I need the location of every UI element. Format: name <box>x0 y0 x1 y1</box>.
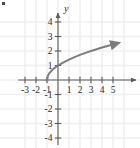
y-axis-tick-label: 4 <box>48 17 53 27</box>
y-axis-name-label: y <box>63 3 69 14</box>
y-axis-tick-label: -1 <box>45 90 53 100</box>
coordinate-plane: -3-2-112345-4-3-2-11234 y <box>0 0 140 148</box>
x-axis-tick-label: 4 <box>100 85 105 95</box>
x-axis-tick-label: 5 <box>111 85 116 95</box>
x-axis-tick-label: 2 <box>78 85 83 95</box>
y-axis-tick-label: -3 <box>45 119 53 129</box>
y-axis-tick-label: -4 <box>45 133 53 143</box>
grid-lines <box>0 0 140 148</box>
function-curve <box>45 43 118 82</box>
x-axis-tick-label: 1 <box>67 85 72 95</box>
y-axis-tick-label: 3 <box>48 32 53 42</box>
axis-name-labels: y <box>63 3 69 14</box>
y-axis-tick-label: -2 <box>45 104 53 114</box>
curve-endpoint-dot <box>45 78 48 81</box>
x-axis-tick-label: -3 <box>21 85 29 95</box>
graph-figure: -3-2-112345-4-3-2-11234 y <box>0 0 140 148</box>
x-axis-tick-label: -2 <box>32 85 40 95</box>
y-axis-tick-label: 2 <box>48 46 53 56</box>
x-axis-tick-label: 3 <box>89 85 94 95</box>
